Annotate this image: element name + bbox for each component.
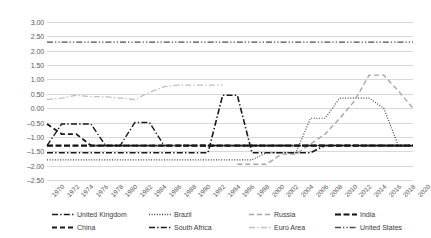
- x-axis-tick-label: 1986: [167, 183, 182, 198]
- series-line-brazil: [47, 98, 413, 160]
- y-axis-tick-label: 1.50: [31, 62, 44, 69]
- x-axis-tick-label: 2008: [328, 183, 343, 198]
- legend-item-united-states[interactable]: United States: [335, 221, 427, 234]
- x-axis-tick-label: 2016: [387, 183, 402, 198]
- y-axis-tick-label: –1.50: [27, 148, 44, 155]
- x-axis-line: [47, 180, 413, 181]
- legend-item-india[interactable]: India: [335, 208, 427, 221]
- x-axis-tick-label: 1990: [197, 183, 212, 198]
- y-axis-tick-label: 1.00: [31, 76, 44, 83]
- x-axis-tick-label: 1974: [80, 183, 95, 198]
- legend-item-united-kingdom[interactable]: United Kingdom: [52, 208, 149, 221]
- x-axis-tick-label: 1988: [182, 183, 197, 198]
- legend-label-india: India: [360, 208, 375, 221]
- y-axis-tick-label: –2.00: [27, 162, 44, 169]
- legend-label-south-africa: South Africa: [174, 221, 212, 234]
- series-line-united-kingdom: [47, 123, 413, 146]
- legend-swatch-south-africa: [149, 224, 171, 231]
- legend-label-china: China: [77, 221, 95, 234]
- y-axis-tick-label: –1.00: [27, 133, 44, 140]
- legend-label-brazil: Brazil: [174, 208, 192, 221]
- legend-swatch-india: [335, 211, 357, 218]
- legend-item-euro-area[interactable]: Euro Area: [249, 221, 335, 234]
- x-axis-tick-label: 2020: [416, 183, 431, 198]
- x-axis-tick-label: 1998: [255, 183, 270, 198]
- y-axis-tick-label: 0.00: [31, 105, 44, 112]
- legend-swatch-united-kingdom: [52, 211, 74, 218]
- x-axis-tick-label: 1992: [211, 183, 226, 198]
- x-axis-tick-label: 1978: [109, 183, 124, 198]
- legend-label-united-kingdom: United Kingdom: [77, 208, 127, 221]
- x-axis-tick-label: 2012: [358, 183, 373, 198]
- legend-item-china[interactable]: China: [52, 221, 149, 234]
- x-axis-tick-label: 1972: [65, 183, 80, 198]
- x-axis-tick-label: 2014: [372, 183, 387, 198]
- series-line-russia: [237, 75, 413, 164]
- x-axis-tick-label: 2004: [299, 183, 314, 198]
- x-axis-tick-label: 2000: [270, 183, 285, 198]
- x-axis-tick-label: 2006: [314, 183, 329, 198]
- x-axis-tick-label: 1984: [153, 183, 168, 198]
- y-axis-tick-label: 2.50: [31, 33, 44, 40]
- legend-label-russia: Russia: [274, 208, 295, 221]
- y-axis-tick-label: 0.50: [31, 90, 44, 97]
- x-axis-tick-label: 2018: [402, 183, 417, 198]
- y-axis-tick-label: –2.50: [27, 177, 44, 184]
- legend-swatch-euro-area: [249, 224, 271, 231]
- x-axis-tick-label: 1970: [50, 183, 65, 198]
- legend-label-euro-area: Euro Area: [274, 221, 305, 234]
- plot-area: [47, 22, 413, 180]
- series-line-euro-area: [47, 85, 223, 99]
- y-axis-tick-label: –0.50: [27, 119, 44, 126]
- legend-item-russia[interactable]: Russia: [249, 208, 335, 221]
- x-axis-tick-label: 2002: [284, 183, 299, 198]
- series-line-south-africa: [47, 95, 413, 152]
- legend-label-united-states: United States: [360, 221, 402, 234]
- series-layer: [47, 22, 413, 180]
- legend-item-south-africa[interactable]: South Africa: [149, 221, 249, 234]
- x-axis-tick-label: 1982: [138, 183, 153, 198]
- chart-legend: United KingdomChinaBrazilSouth AfricaRus…: [52, 208, 412, 234]
- legend-item-brazil[interactable]: Brazil: [149, 208, 249, 221]
- y-axis-tick-label: 2.00: [31, 47, 44, 54]
- x-axis-tick-label: 1976: [94, 183, 109, 198]
- legend-swatch-china: [52, 224, 74, 231]
- y-axis-tick-label: 3.00: [31, 19, 44, 26]
- series-line-china: [47, 124, 413, 146]
- x-axis-tick-label: 1994: [226, 183, 241, 198]
- x-axis-tick-label: 1996: [241, 183, 256, 198]
- x-axis-tick-label: 2010: [343, 183, 358, 198]
- legend-swatch-united-states: [335, 224, 357, 231]
- legend-swatch-russia: [249, 211, 271, 218]
- legend-swatch-brazil: [149, 211, 171, 218]
- x-axis-tick-label: 1980: [123, 183, 138, 198]
